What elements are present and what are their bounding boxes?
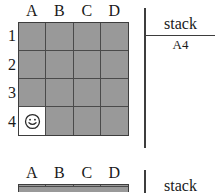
grid-cell-b2[interactable] <box>46 51 73 79</box>
grid-cell-b4[interactable] <box>46 107 73 135</box>
grid-cell-c1[interactable] <box>74 185 101 187</box>
grid-cell-b1[interactable] <box>46 185 73 187</box>
grid-cell-d1[interactable] <box>101 185 128 187</box>
grid-cell-d3[interactable] <box>101 79 128 107</box>
column-header-d: D <box>101 0 129 22</box>
stack-panel-1: stack A4 <box>144 8 215 148</box>
row-label-1: 1 <box>2 22 16 51</box>
grid-cell-a1[interactable] <box>19 23 46 51</box>
column-header-c: C <box>73 162 101 184</box>
column-header-b: B <box>46 162 74 184</box>
board-grid-2 <box>18 184 129 192</box>
board-grid-1 <box>18 22 129 136</box>
column-header-d: D <box>101 162 129 184</box>
column-header-a: A <box>18 0 46 22</box>
grid-cell-d4[interactable] <box>101 107 128 135</box>
grid-cell-b3[interactable] <box>46 79 73 107</box>
grid-cell-c4[interactable] <box>74 107 101 135</box>
column-header-row-1: A B C D <box>18 0 129 22</box>
grid-cell-a1[interactable] <box>19 185 46 187</box>
diagram-figure-2: A B C D stack <box>0 162 215 193</box>
grid-cell-a2[interactable] <box>19 51 46 79</box>
stack-item-list-1: A4 <box>146 36 215 53</box>
grid-cell-a4[interactable] <box>19 107 46 135</box>
column-header-c: C <box>73 0 101 22</box>
grid-cell-c2[interactable] <box>74 51 101 79</box>
row-label-2: 2 <box>2 51 16 80</box>
stack-title-1: stack <box>146 15 215 33</box>
grid-cell-a3[interactable] <box>19 79 46 107</box>
row-label-4: 4 <box>2 108 16 137</box>
stack-panel-2: stack <box>144 170 215 193</box>
stack-title-2: stack <box>146 177 215 193</box>
column-header-b: B <box>46 0 74 22</box>
grid-block-1: A B C D 1 2 3 4 <box>18 0 129 22</box>
column-header-a: A <box>18 162 46 184</box>
row-label-column-1: 1 2 3 4 <box>2 22 16 136</box>
grid-block-2: A B C D <box>18 162 129 184</box>
stack-item: A4 <box>146 36 215 53</box>
row-label-3: 3 <box>2 79 16 108</box>
smiley-face-icon <box>24 113 41 130</box>
grid-cell-d1[interactable] <box>101 23 128 51</box>
diagram-figure-1: A B C D 1 2 3 4 <box>0 0 215 152</box>
column-header-row-2: A B C D <box>18 162 129 184</box>
grid-cell-c1[interactable] <box>74 23 101 51</box>
grid-cell-c3[interactable] <box>74 79 101 107</box>
grid-cell-d2[interactable] <box>101 51 128 79</box>
grid-cell-b1[interactable] <box>46 23 73 51</box>
